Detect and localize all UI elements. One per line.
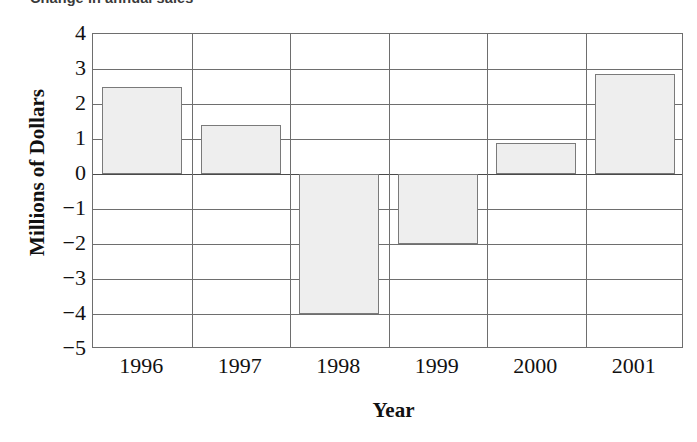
x-axis-title-text: Year <box>373 398 415 422</box>
gridline-horizontal <box>93 209 682 210</box>
chart-title: Change in annual sales <box>30 0 193 6</box>
plot-area <box>92 33 683 348</box>
gridline-vertical <box>487 34 488 347</box>
y-axis-tick-labels: 43210−1−2−3−4−5 <box>34 33 86 348</box>
bar-1997 <box>201 125 281 174</box>
gridline-vertical <box>586 34 587 347</box>
x-tick-label-1996: 1996 <box>92 355 191 377</box>
x-tick-label-2001: 2001 <box>585 355 684 377</box>
bar-1999 <box>398 174 478 244</box>
y-tick-label: 3 <box>40 57 86 79</box>
bar-2001 <box>595 74 675 174</box>
gridline-vertical <box>192 34 193 347</box>
gridline-vertical <box>389 34 390 347</box>
gridline-horizontal <box>93 279 682 280</box>
y-tick-label: 0 <box>40 162 86 184</box>
gridline-vertical <box>290 34 291 347</box>
y-tick-label: 4 <box>40 22 86 44</box>
y-tick-label: −2 <box>40 232 86 254</box>
y-tick-label: −1 <box>40 197 86 219</box>
x-axis-title: Year <box>0 398 697 423</box>
y-tick-label: 2 <box>40 92 86 114</box>
x-axis-tick-labels: 199619971998199920002001 <box>92 355 683 387</box>
gridline-horizontal <box>93 244 682 245</box>
bar-chart: Change in annual sales Millions of Dolla… <box>0 0 697 442</box>
x-tick-label-2000: 2000 <box>486 355 585 377</box>
bar-2000 <box>496 143 576 175</box>
bar-1996 <box>102 87 182 175</box>
gridline-horizontal <box>93 314 682 315</box>
y-tick-label: −4 <box>40 302 86 324</box>
gridline-horizontal <box>93 69 682 70</box>
bar-1998 <box>299 174 379 314</box>
x-tick-label-1999: 1999 <box>388 355 487 377</box>
x-tick-label-1998: 1998 <box>289 355 388 377</box>
y-tick-label: −5 <box>40 337 86 359</box>
x-tick-label-1997: 1997 <box>191 355 290 377</box>
y-tick-label: −3 <box>40 267 86 289</box>
y-tick-label: 1 <box>40 127 86 149</box>
